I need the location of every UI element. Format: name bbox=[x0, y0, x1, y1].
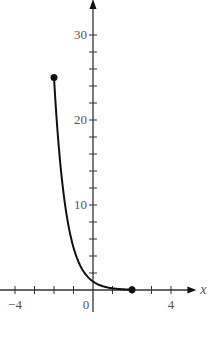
axes bbox=[0, 0, 196, 312]
endpoint-dot bbox=[129, 286, 136, 293]
tick-labels: −404102030xy bbox=[8, 0, 207, 312]
x-tick-label: 0 bbox=[83, 297, 90, 312]
x-tick-label: 4 bbox=[168, 297, 175, 312]
x-axis-label: x bbox=[199, 282, 207, 297]
endpoint-dot bbox=[51, 74, 58, 81]
x-tick-label: −4 bbox=[8, 297, 22, 312]
function-graph: −404102030xy bbox=[0, 0, 218, 339]
y-tick-label: 30 bbox=[74, 27, 87, 42]
x-axis-arrow-icon bbox=[187, 287, 196, 294]
y-axis-arrow-icon bbox=[90, 0, 97, 9]
y-tick-label: 10 bbox=[74, 197, 87, 212]
y-tick-label: 20 bbox=[74, 112, 87, 127]
